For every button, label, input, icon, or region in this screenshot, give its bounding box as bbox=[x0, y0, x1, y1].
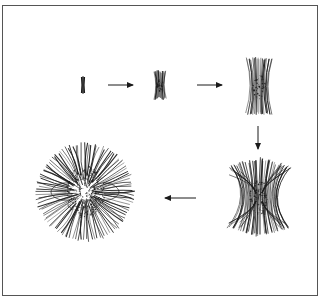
stage-5-spherulite bbox=[36, 142, 135, 242]
stage-1-initial-fibril bbox=[82, 77, 85, 93]
arrows bbox=[108, 85, 258, 198]
spherulite-growth-diagram bbox=[0, 0, 324, 299]
stage-2-small-sheaf bbox=[154, 70, 166, 100]
stage-3-large-sheaf bbox=[246, 57, 272, 115]
stage-4-hourglass-sheaf bbox=[227, 157, 291, 236]
